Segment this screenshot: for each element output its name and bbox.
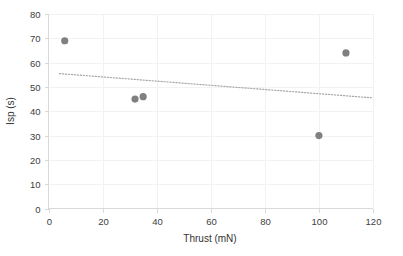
- data-point: [61, 37, 68, 44]
- y-tick-label: 10: [30, 179, 41, 190]
- x-tick-label: 20: [98, 216, 109, 227]
- data-point: [315, 132, 322, 139]
- x-tick-label: 120: [366, 216, 382, 227]
- y-tick-label: 0: [35, 204, 40, 215]
- x-tick-label: 100: [312, 216, 328, 227]
- y-tick-label: 30: [30, 131, 41, 142]
- y-axis-title: Isp (s): [5, 97, 16, 125]
- x-tick-label: 80: [260, 216, 271, 227]
- y-tick-label: 40: [30, 106, 41, 117]
- data-point: [131, 95, 138, 102]
- data-point: [342, 49, 349, 56]
- chart-canvas: 01020304050607080 020406080100120 Thrust…: [0, 0, 403, 256]
- x-tick-label: 60: [206, 216, 217, 227]
- data-point: [140, 93, 147, 100]
- y-tick-label: 70: [30, 33, 41, 44]
- x-tick-label: 0: [47, 216, 52, 227]
- x-tick-label: 40: [152, 216, 163, 227]
- y-tick-labels: 01020304050607080: [30, 9, 41, 215]
- y-tick-label: 80: [30, 9, 41, 20]
- y-tick-label: 60: [30, 58, 41, 69]
- x-axis-title: Thrust (mN): [183, 233, 236, 244]
- scatter-chart: 01020304050607080 020406080100120 Thrust…: [0, 0, 403, 256]
- y-tick-label: 20: [30, 155, 41, 166]
- y-tick-label: 50: [30, 82, 41, 93]
